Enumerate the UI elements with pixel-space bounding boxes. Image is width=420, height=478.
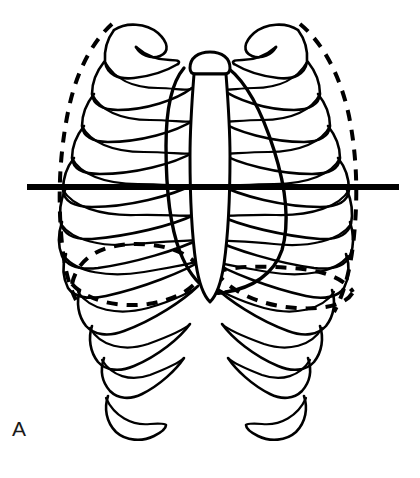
ribs-left bbox=[59, 25, 206, 440]
sternum bbox=[190, 52, 230, 302]
figure-container: A bbox=[0, 0, 420, 478]
panel-label: A bbox=[12, 418, 27, 439]
thorax-illustration bbox=[0, 0, 420, 478]
